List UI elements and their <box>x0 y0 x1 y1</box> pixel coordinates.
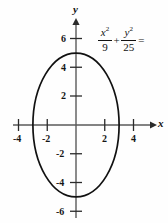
y-axis-label: y <box>73 4 78 15</box>
exponent-2: 2 <box>106 25 110 33</box>
x-tick-label-neg2: -2 <box>42 134 50 144</box>
y-tick-label-neg4: -4 <box>56 178 64 188</box>
equals-sign: = <box>136 34 144 46</box>
y-tick-label-4: 4 <box>61 63 66 73</box>
plus-operator: + <box>112 34 121 46</box>
numerator-x-squared: x2 <box>99 27 111 39</box>
denominator-9: 9 <box>100 42 110 54</box>
y-tick-label-neg2: -2 <box>56 149 64 159</box>
y-tick-label-2: 2 <box>61 91 66 101</box>
fraction-x-squared-over-9: x2 9 <box>98 27 112 53</box>
exponent-2: 2 <box>129 25 133 33</box>
x-tick-label-2: 2 <box>102 134 107 144</box>
fraction-y-squared-over-25: y2 25 <box>121 27 136 53</box>
y-tick-label-6: 6 <box>61 34 66 44</box>
ellipse-figure: -4 -2 2 4 6 4 2 -2 -4 -6 y x x2 9 + y2 2… <box>0 0 168 223</box>
x-axis-label: x <box>158 118 164 129</box>
numerator-y-squared: y2 <box>123 27 135 39</box>
equation-annotation: x2 9 + y2 25 = <box>98 27 144 53</box>
x-axis <box>13 121 157 128</box>
x-tick-label-4: 4 <box>131 134 136 144</box>
y-axis <box>72 18 79 218</box>
denominator-25: 25 <box>121 42 136 54</box>
x-tick-label-neg4: -4 <box>13 134 21 144</box>
y-tick-label-neg6: -6 <box>56 207 64 217</box>
